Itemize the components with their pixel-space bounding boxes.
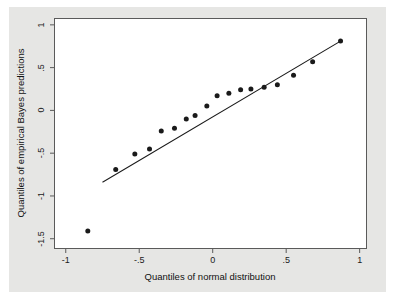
data-points [85,39,343,234]
y-tick-label: -1 [37,192,46,200]
y-tick-label: 0 [37,108,46,113]
x-tick-label: 0 [210,256,215,265]
x-tick-label: 1 [357,256,362,265]
x-tick-label: -.5 [134,256,145,265]
chart-canvas [0,0,395,301]
x-axis-ticks [66,249,360,253]
x-tick-label: -1 [62,256,70,265]
x-axis-title: Quantiles of normal distribution [145,272,276,282]
y-tick-label: -.5 [37,148,46,159]
y-tick-label: -1.5 [37,231,46,247]
y-tick-label: .5 [37,64,46,72]
reference-line [102,41,340,182]
qq-plot-figure: -1-.50.51 1.50-.5-1-1.5 Quantiles of nor… [0,0,395,301]
y-axis-title: Quantiles of empirical Bayes predictions [16,49,26,218]
y-tick-label: 1 [37,22,46,27]
y-axis-ticks [50,25,54,239]
x-tick-label: .5 [282,256,290,265]
